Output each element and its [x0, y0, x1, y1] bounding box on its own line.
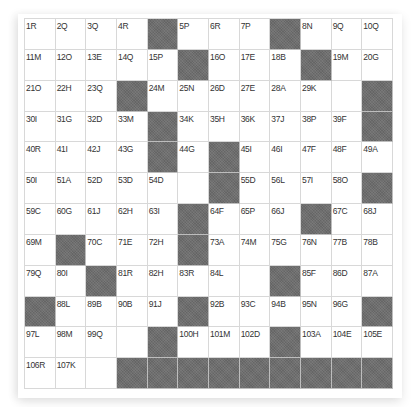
grid-cell[interactable]: 105E — [362, 327, 393, 358]
grid-cell[interactable]: 9Q — [332, 19, 363, 50]
grid-cell[interactable]: 45I — [240, 142, 271, 173]
grid-cell[interactable]: 56L — [270, 173, 301, 204]
grid-cell[interactable]: 88L — [56, 297, 87, 328]
grid-cell[interactable]: 2Q — [56, 19, 87, 50]
grid-cell[interactable]: 63I — [148, 204, 179, 235]
grid-cell[interactable]: 8N — [301, 19, 332, 50]
grid-cell[interactable]: 50I — [25, 173, 56, 204]
grid-cell[interactable]: 57I — [301, 173, 332, 204]
grid-cell[interactable]: 97L — [25, 327, 56, 358]
grid-cell[interactable]: 30I — [25, 112, 56, 143]
grid-cell[interactable]: 24M — [148, 81, 179, 112]
grid-cell[interactable]: 15P — [148, 50, 179, 81]
grid-cell[interactable]: 23Q — [86, 81, 117, 112]
grid-cell[interactable]: 94B — [270, 297, 301, 328]
grid-cell[interactable] — [332, 81, 363, 112]
grid-cell[interactable]: 95N — [301, 297, 332, 328]
grid-cell[interactable]: 10Q — [362, 19, 393, 50]
grid-cell[interactable]: 11M — [25, 50, 56, 81]
grid-cell[interactable]: 77B — [332, 235, 363, 266]
grid-cell[interactable]: 98M — [56, 327, 87, 358]
grid-cell[interactable]: 86D — [332, 266, 363, 297]
grid-cell[interactable]: 25N — [178, 81, 209, 112]
grid-cell[interactable] — [117, 327, 148, 358]
grid-cell[interactable] — [86, 358, 117, 389]
grid-cell[interactable]: 85F — [301, 266, 332, 297]
grid-cell[interactable]: 106R — [25, 358, 56, 389]
grid-cell[interactable]: 21O — [25, 81, 56, 112]
grid-cell[interactable]: 18B — [270, 50, 301, 81]
grid-cell[interactable]: 48F — [332, 142, 363, 173]
grid-cell[interactable]: 74M — [240, 235, 271, 266]
grid-cell[interactable] — [240, 266, 271, 297]
grid-cell[interactable]: 55D — [240, 173, 271, 204]
grid-cell[interactable]: 67C — [332, 204, 363, 235]
grid-cell[interactable]: 41I — [56, 142, 87, 173]
grid-cell[interactable]: 14Q — [117, 50, 148, 81]
grid-cell[interactable]: 43G — [117, 142, 148, 173]
grid-cell[interactable]: 83R — [178, 266, 209, 297]
grid-cell[interactable]: 20G — [362, 50, 393, 81]
grid-cell[interactable]: 31G — [56, 112, 87, 143]
grid-cell[interactable]: 38P — [301, 112, 332, 143]
grid-cell[interactable]: 96G — [332, 297, 363, 328]
grid-cell[interactable]: 34K — [178, 112, 209, 143]
grid-cell[interactable]: 79Q — [25, 266, 56, 297]
grid-cell[interactable]: 66J — [270, 204, 301, 235]
grid-cell[interactable]: 64F — [209, 204, 240, 235]
grid-cell[interactable]: 40R — [25, 142, 56, 173]
grid-cell[interactable]: 76N — [301, 235, 332, 266]
grid-cell[interactable]: 84L — [209, 266, 240, 297]
grid-cell[interactable]: 27E — [240, 81, 271, 112]
grid-cell[interactable]: 71E — [117, 235, 148, 266]
grid-cell[interactable] — [178, 173, 209, 204]
grid-cell[interactable]: 33M — [117, 112, 148, 143]
grid-cell[interactable]: 101M — [209, 327, 240, 358]
grid-cell[interactable]: 62H — [117, 204, 148, 235]
grid-cell[interactable]: 90B — [117, 297, 148, 328]
grid-cell[interactable]: 4R — [117, 19, 148, 50]
grid-cell[interactable]: 60G — [56, 204, 87, 235]
grid-cell[interactable]: 42J — [86, 142, 117, 173]
grid-cell[interactable]: 16O — [209, 50, 240, 81]
grid-cell[interactable]: 59C — [25, 204, 56, 235]
grid-cell[interactable]: 104E — [332, 327, 363, 358]
grid-cell[interactable]: 89B — [86, 297, 117, 328]
grid-cell[interactable]: 35H — [209, 112, 240, 143]
grid-cell[interactable]: 58O — [332, 173, 363, 204]
grid-cell[interactable]: 29K — [301, 81, 332, 112]
grid-cell[interactable]: 44G — [178, 142, 209, 173]
grid-cell[interactable]: 1R — [25, 19, 56, 50]
grid-cell[interactable]: 36K — [240, 112, 271, 143]
grid-cell[interactable]: 93C — [240, 297, 271, 328]
grid-cell[interactable]: 100H — [178, 327, 209, 358]
grid-cell[interactable]: 80I — [56, 266, 87, 297]
grid-cell[interactable]: 7P — [240, 19, 271, 50]
grid-cell[interactable]: 69M — [25, 235, 56, 266]
grid-cell[interactable]: 102D — [240, 327, 271, 358]
grid-cell[interactable]: 47F — [301, 142, 332, 173]
grid-cell[interactable]: 51A — [56, 173, 87, 204]
grid-cell[interactable]: 28A — [270, 81, 301, 112]
grid-cell[interactable]: 61J — [86, 204, 117, 235]
grid-cell[interactable]: 46I — [270, 142, 301, 173]
grid-cell[interactable]: 75G — [270, 235, 301, 266]
grid-cell[interactable]: 99Q — [86, 327, 117, 358]
grid-cell[interactable]: 37J — [270, 112, 301, 143]
grid-cell[interactable]: 92B — [209, 297, 240, 328]
grid-cell[interactable]: 19M — [332, 50, 363, 81]
grid-cell[interactable]: 13E — [86, 50, 117, 81]
grid-cell[interactable]: 78B — [362, 235, 393, 266]
grid-cell[interactable]: 5P — [178, 19, 209, 50]
grid-cell[interactable]: 53D — [117, 173, 148, 204]
grid-cell[interactable]: 87A — [362, 266, 393, 297]
grid-cell[interactable]: 54D — [148, 173, 179, 204]
grid-cell[interactable]: 72H — [148, 235, 179, 266]
grid-cell[interactable]: 6R — [209, 19, 240, 50]
grid-cell[interactable]: 73A — [209, 235, 240, 266]
grid-cell[interactable]: 70C — [86, 235, 117, 266]
grid-cell[interactable]: 52D — [86, 173, 117, 204]
grid-cell[interactable]: 103A — [301, 327, 332, 358]
grid-cell[interactable]: 91J — [148, 297, 179, 328]
grid-cell[interactable]: 107K — [56, 358, 87, 389]
